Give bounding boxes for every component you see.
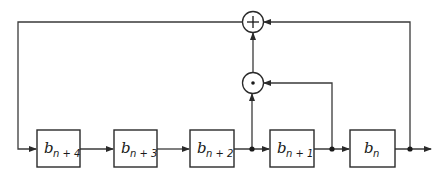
register-bn4: b n + 4 bbox=[37, 130, 80, 167]
junction-dot bbox=[329, 146, 334, 151]
shift-register-diagram: b n + 4 b n + 3 b n + 2 b n + 1 b n bbox=[0, 0, 445, 179]
svg-text:n + 2: n + 2 bbox=[206, 148, 233, 159]
junction-dot bbox=[407, 146, 412, 151]
register-bn: b n bbox=[350, 130, 395, 167]
register-bn2: b n + 2 bbox=[190, 130, 234, 167]
svg-text:n: n bbox=[373, 148, 379, 159]
svg-text:n + 1: n + 1 bbox=[286, 148, 313, 159]
junction-dot bbox=[249, 146, 254, 151]
dot-product-icon bbox=[251, 81, 255, 85]
register-bn3: b n + 3 bbox=[114, 130, 157, 167]
svg-text:n + 4: n + 4 bbox=[53, 148, 80, 159]
svg-text:n + 3: n + 3 bbox=[130, 148, 157, 159]
register-bn1: b n + 1 bbox=[270, 130, 314, 167]
adder-node bbox=[243, 12, 264, 33]
multiplier-node bbox=[243, 73, 264, 94]
